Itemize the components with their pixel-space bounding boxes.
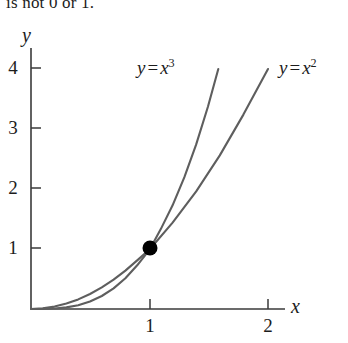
- y-tick-label-4: 4: [2, 58, 24, 77]
- x-tick-label-1: 1: [139, 316, 161, 335]
- curve-label-square-operator: =: [287, 57, 302, 78]
- y-tick-label-2: 2: [2, 178, 24, 197]
- curve-label-cubic-base: x: [160, 57, 168, 78]
- x-axis-label: x: [291, 296, 300, 316]
- curve-label-square-base: x: [302, 57, 310, 78]
- intersection-point-marker: [143, 241, 158, 256]
- curve-label-square: y=x2: [279, 58, 317, 77]
- curve-y-equals-x-squared: [31, 69, 268, 309]
- x-tick-label-2: 2: [257, 316, 279, 335]
- curve-label-square-exponent: 2: [311, 56, 317, 70]
- y-tick-label-1: 1: [2, 238, 24, 257]
- y-tick-label-3: 3: [2, 118, 24, 137]
- curve-label-cubic-exponent: 3: [169, 56, 175, 70]
- plot-canvas: [0, 0, 348, 343]
- curve-y-equals-x-cubed: [31, 69, 218, 309]
- y-axis-label: y: [22, 25, 31, 45]
- figure-container: is not 0 or 1. 1 2 3 4 1 2 y x y=x3 y=x2: [0, 0, 348, 343]
- curve-label-cubic: y=x3: [137, 58, 175, 77]
- curve-label-cubic-operator: =: [145, 57, 160, 78]
